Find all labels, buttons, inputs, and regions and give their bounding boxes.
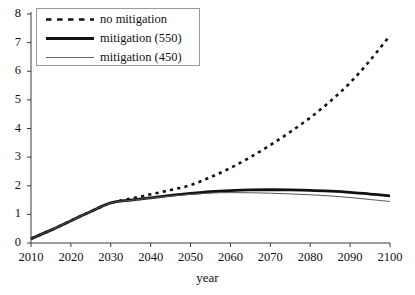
y-tick-label: 7 <box>1 35 21 50</box>
y-tick-label: 8 <box>1 6 21 21</box>
legend-swatch-thin-line-icon <box>44 48 96 67</box>
y-tick-label: 1 <box>1 206 21 221</box>
legend-label-mitigation-550: mitigation (550) <box>100 29 182 48</box>
y-tick-label: 5 <box>1 92 21 107</box>
y-tick-label: 4 <box>1 121 21 136</box>
y-tick-label: 0 <box>1 235 21 250</box>
legend: no mitigation mitigation (550) mitigatio… <box>36 8 200 66</box>
y-tick-label: 6 <box>1 63 21 78</box>
legend-label-mitigation-450: mitigation (450) <box>100 48 182 67</box>
legend-item-no-mitigation[interactable]: no mitigation <box>37 10 201 29</box>
legend-swatch-thick-line-icon <box>44 29 96 48</box>
x-axis-title: year <box>0 270 415 286</box>
legend-item-mitigation-550[interactable]: mitigation (550) <box>37 29 201 48</box>
y-tick-label: 2 <box>1 178 21 193</box>
legend-swatch-dashed-icon <box>44 10 96 29</box>
legend-item-mitigation-450[interactable]: mitigation (450) <box>37 48 201 67</box>
chart-container: 012345678 201020202030204020502060207020… <box>0 0 415 295</box>
y-tick-label: 3 <box>1 149 21 164</box>
x-tick-label: 2100 <box>366 250 414 265</box>
legend-label-no-mitigation: no mitigation <box>100 10 167 29</box>
